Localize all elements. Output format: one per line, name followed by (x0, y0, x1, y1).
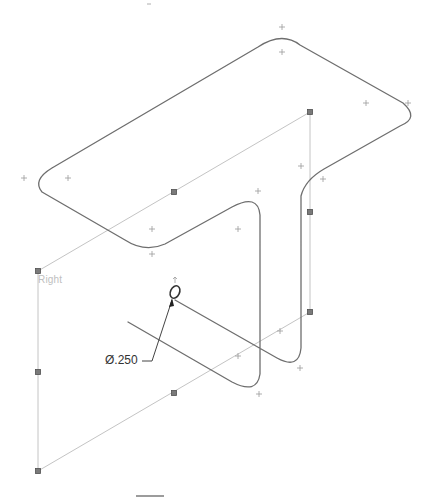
profile-circle[interactable] (168, 284, 182, 300)
plane-handle-top-right[interactable] (308, 110, 313, 115)
cross-icon (149, 251, 155, 257)
cross-icon (298, 163, 304, 169)
diameter-dimension-text[interactable]: Ø.250 (105, 353, 138, 367)
cross-icon (255, 188, 261, 194)
plane-label-right[interactable]: Right (38, 274, 62, 285)
sketch-canvas[interactable] (0, 0, 425, 498)
graphics-viewport[interactable]: Right Ø.250 (0, 0, 425, 498)
cross-icon (279, 24, 285, 30)
right-plane-outline[interactable] (38, 112, 310, 471)
plane-handle-right-mid[interactable] (308, 210, 313, 215)
cross-icon (235, 226, 241, 232)
origin-marker-icon (173, 277, 177, 283)
cross-icon (279, 49, 285, 55)
right-plane[interactable] (38, 112, 310, 471)
cross-icon (297, 365, 303, 371)
cross-icon (149, 226, 155, 232)
plane-handle-bottom-left[interactable] (36, 469, 41, 474)
arrowhead-icon (169, 298, 174, 307)
plane-handle-top-mid[interactable] (172, 190, 177, 195)
cross-icon (235, 353, 241, 359)
plane-handle-left-mid[interactable] (36, 370, 41, 375)
plane-handles[interactable] (36, 110, 313, 474)
cross-icon (277, 328, 283, 334)
cross-icon (65, 175, 71, 181)
cross-icon (256, 391, 262, 397)
cross-icon (21, 175, 27, 181)
view-indicator-bar (136, 495, 164, 497)
sweep-path[interactable] (39, 38, 411, 387)
cross-icon (320, 176, 326, 182)
plane-handle-bottom-right[interactable] (308, 310, 313, 315)
fillet-center-points (21, 4, 411, 397)
cross-icon (363, 100, 369, 106)
plane-handle-bottom-mid[interactable] (172, 391, 177, 396)
plane-handle-top-left[interactable] (36, 269, 41, 274)
diameter-dimension-leader[interactable] (142, 298, 174, 361)
